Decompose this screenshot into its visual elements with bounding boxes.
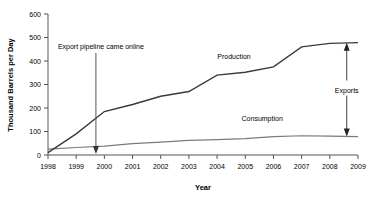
x-tick-label: 1998 xyxy=(40,163,56,170)
x-tick-label: 2002 xyxy=(153,163,169,170)
x-tick-label: 2005 xyxy=(237,163,253,170)
chart-container: 0100200300400500600 19981999200020012002… xyxy=(0,0,374,197)
y-tick-label: 0 xyxy=(37,152,41,159)
x-tick-label: 2009 xyxy=(350,163,366,170)
line-chart: 0100200300400500600 19981999200020012002… xyxy=(0,0,374,197)
x-tick-label: 2001 xyxy=(125,163,141,170)
y-tick-label: 500 xyxy=(29,34,41,41)
y-tick-label: 600 xyxy=(29,11,41,18)
consumption-label: Consumption xyxy=(242,115,283,123)
x-tick-label: 2003 xyxy=(181,163,197,170)
x-tick-label: 1999 xyxy=(68,163,84,170)
y-axis-title: Thousand Barrels per Day xyxy=(6,37,15,131)
y-tick-label: 400 xyxy=(29,58,41,65)
y-tick-label: 300 xyxy=(29,81,41,88)
y-tick-label: 100 xyxy=(29,128,41,135)
x-tick-label: 2006 xyxy=(266,163,282,170)
exports-annotation-label: Exports xyxy=(335,87,359,95)
x-tick-label: 2004 xyxy=(209,163,225,170)
x-axis-title: Year xyxy=(195,183,211,192)
x-tick-label: 2008 xyxy=(322,163,338,170)
x-tick-label: 2007 xyxy=(294,163,310,170)
y-tick-label: 200 xyxy=(29,105,41,112)
x-tick-label: 2000 xyxy=(97,163,113,170)
production-label: Production xyxy=(217,53,251,60)
pipeline-annotation-label: Export pipeline came online xyxy=(58,43,144,51)
